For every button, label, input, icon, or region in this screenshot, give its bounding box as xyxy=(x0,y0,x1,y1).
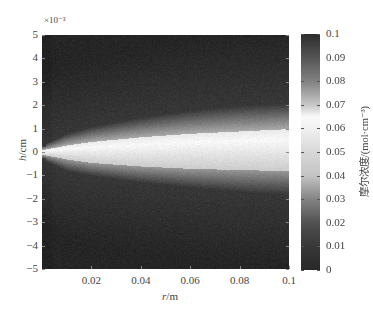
x-tick-label: 0.02 xyxy=(71,274,111,286)
y-tick-label: −3 xyxy=(20,215,38,227)
colorbar-tick-mark xyxy=(317,81,320,82)
colorbar-tick-mark xyxy=(301,81,304,82)
colorbar-tick-mark xyxy=(301,128,304,129)
y-tick-mark xyxy=(42,175,45,176)
colorbar-tick-mark xyxy=(301,199,304,200)
colorbar-tick-mark xyxy=(301,223,304,224)
x-tick-label: 0.04 xyxy=(121,274,161,286)
y-tick-mark xyxy=(286,35,289,36)
y-tick-label: −1 xyxy=(20,168,38,180)
y-tick-mark xyxy=(286,222,289,223)
y-tick-mark xyxy=(42,82,45,83)
colorbar-tick-mark xyxy=(301,246,304,247)
y-axis-label-var: h xyxy=(16,156,28,162)
y-tick-mark xyxy=(42,35,45,36)
colorbar-tick-mark xyxy=(317,128,320,129)
y-tick-label: −5 xyxy=(20,262,38,274)
colorbar-tick-mark xyxy=(301,105,304,106)
y-tick-mark xyxy=(42,58,45,59)
y-tick-mark xyxy=(286,175,289,176)
y-tick-mark xyxy=(42,269,45,270)
colorbar-tick-label: 0.02 xyxy=(326,216,345,228)
colorbar-tick-label: 0.06 xyxy=(326,121,345,133)
y-tick-mark xyxy=(42,129,45,130)
colorbar-tick-label: 0 xyxy=(326,263,332,275)
x-tick-mark xyxy=(289,266,290,269)
y-tick-mark xyxy=(42,246,45,247)
x-tick-mark xyxy=(91,266,92,269)
colorbar-tick-label: 0.1 xyxy=(326,27,340,39)
colorbar-tick-mark xyxy=(317,199,320,200)
colorbar-tick-mark xyxy=(301,176,304,177)
colorbar-tick-label: 0.03 xyxy=(326,192,345,204)
colorbar-tick-mark xyxy=(317,223,320,224)
colorbar-tick-mark xyxy=(301,58,304,59)
x-tick-mark xyxy=(240,266,241,269)
y-tick-label: 2 xyxy=(20,98,38,110)
x-tick-label: 0.1 xyxy=(269,274,309,286)
x-tick-label: 0.06 xyxy=(170,274,210,286)
colorbar-tick-mark xyxy=(317,270,320,271)
y-tick-label: 5 xyxy=(20,28,38,40)
colorbar-tick-mark xyxy=(301,34,304,35)
y-tick-mark xyxy=(286,269,289,270)
y-tick-mark xyxy=(286,82,289,83)
x-tick-mark xyxy=(190,266,191,269)
heatmap-plot-area xyxy=(42,35,289,269)
colorbar-tick-label: 0.04 xyxy=(326,169,345,181)
colorbar-tick-mark xyxy=(317,152,320,153)
y-tick-mark xyxy=(286,199,289,200)
colorbar-tick-label: 0.05 xyxy=(326,145,345,157)
colorbar-tick-mark xyxy=(317,176,320,177)
colorbar-tick-label: 0.09 xyxy=(326,51,345,63)
y-tick-mark xyxy=(42,152,45,153)
y-tick-mark xyxy=(286,246,289,247)
y-tick-mark xyxy=(286,105,289,106)
colorbar-tick-mark xyxy=(301,152,304,153)
y-tick-label: −2 xyxy=(20,192,38,204)
y-tick-mark xyxy=(286,58,289,59)
colorbar-tick-mark xyxy=(301,270,304,271)
x-tick-label: 0.08 xyxy=(220,274,260,286)
y-tick-mark xyxy=(286,152,289,153)
x-axis-label-unit: /m xyxy=(166,290,178,302)
y-tick-mark xyxy=(42,199,45,200)
colorbar-tick-label: 0.07 xyxy=(326,98,345,110)
x-tick-mark xyxy=(141,266,142,269)
colorbar-tick-mark xyxy=(317,246,320,247)
y-tick-mark xyxy=(286,129,289,130)
x-axis-label: r/m xyxy=(155,290,185,302)
y-tick-label: 4 xyxy=(20,51,38,63)
colorbar-tick-mark xyxy=(317,58,320,59)
colorbar-tick-mark xyxy=(317,105,320,106)
y-tick-mark xyxy=(42,222,45,223)
y-axis-exponent: ×10⁻³ xyxy=(44,15,66,25)
y-tick-label: 3 xyxy=(20,75,38,87)
colorbar-tick-label: 0.01 xyxy=(326,239,345,251)
y-tick-label: −4 xyxy=(20,239,38,251)
colorbar-label: 摩尔浓度/(mol·cm⁻³) xyxy=(356,87,371,217)
y-axis-label: h/cm xyxy=(16,130,28,170)
y-tick-mark xyxy=(42,105,45,106)
y-axis-label-unit: /cm xyxy=(16,139,28,156)
colorbar-tick-mark xyxy=(317,34,320,35)
colorbar-tick-label: 0.08 xyxy=(326,74,345,86)
